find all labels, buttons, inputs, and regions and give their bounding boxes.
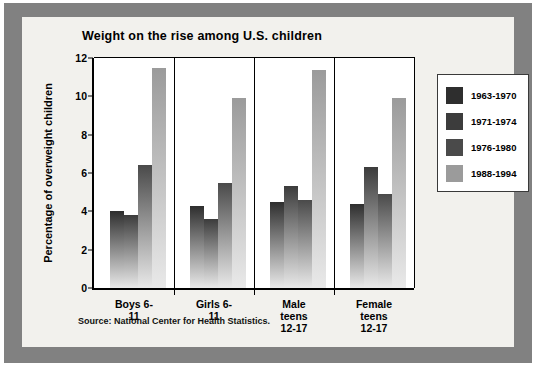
y-tick-mark: [88, 173, 93, 174]
y-tick-mark: [88, 288, 93, 289]
y-tick-mark: [88, 249, 93, 250]
y-axis-title: Percentage of overweight children: [42, 83, 54, 263]
legend-label: 1963-1970: [471, 90, 516, 101]
legend-label: 1976-1980: [471, 142, 516, 153]
bar: [232, 98, 246, 288]
bar-group: Boys 6-11: [94, 58, 174, 288]
bar: [378, 194, 392, 288]
y-tick-label: 6: [81, 167, 87, 179]
y-tick-label: 0: [81, 282, 87, 294]
bar: [110, 211, 124, 288]
bar: [218, 183, 232, 288]
bar: [270, 202, 284, 288]
bar: [350, 204, 364, 288]
legend-item: 1963-1970: [446, 82, 528, 108]
group-separator: [254, 58, 255, 288]
legend-label: 1971-1974: [471, 116, 516, 127]
legend-swatch: [446, 87, 463, 104]
y-tick-label: 10: [75, 90, 87, 102]
chart-legend: 1963-19701971-19741976-19801988-1994: [437, 74, 529, 192]
bar: [298, 200, 312, 288]
bar: [152, 68, 166, 288]
x-tick-mark: [334, 289, 335, 295]
bar-group: Female teens 12-17: [334, 58, 414, 288]
bar: [392, 98, 406, 288]
y-tick-label: 8: [81, 129, 87, 141]
chart-panel: Weight on the rise among U.S. children P…: [22, 17, 514, 347]
legend-item: 1971-1974: [446, 108, 528, 134]
legend-item: 1988-1994: [446, 160, 528, 186]
bar-group: Girls 6-11: [174, 58, 254, 288]
chart-title: Weight on the rise among U.S. children: [82, 29, 322, 43]
source-note: Source: National Center for Health Stati…: [78, 316, 270, 326]
bar: [284, 186, 298, 288]
bar: [204, 219, 218, 288]
group-separator: [174, 58, 175, 288]
y-tick-mark: [88, 134, 93, 135]
plot-area: 024681012 Boys 6-11Girls 6-11Male teens …: [92, 58, 414, 290]
bar: [138, 165, 152, 288]
y-tick-label: 2: [81, 244, 87, 256]
y-tick-mark: [88, 211, 93, 212]
legend-label: 1988-1994: [471, 168, 516, 179]
y-tick-mark: [88, 58, 93, 59]
y-tick-label: 4: [81, 205, 87, 217]
x-tick-mark: [174, 289, 175, 295]
x-axis-label: Female teens 12-17: [354, 298, 394, 334]
chart-figure: Weight on the rise among U.S. children P…: [0, 0, 540, 369]
legend-item: 1976-1980: [446, 134, 528, 160]
group-separator: [334, 58, 335, 288]
plot-border-right: [414, 57, 415, 288]
bar-group: Male teens 12-17: [254, 58, 334, 288]
y-tick-label: 12: [75, 52, 87, 64]
x-tick-mark: [254, 289, 255, 295]
legend-swatch: [446, 113, 463, 130]
bar: [190, 206, 204, 288]
x-axis-label: Male teens 12-17: [274, 298, 314, 334]
bar: [364, 167, 378, 288]
legend-swatch: [446, 139, 463, 156]
y-tick-mark: [88, 96, 93, 97]
legend-swatch: [446, 165, 463, 182]
bar: [124, 215, 138, 288]
bar: [312, 70, 326, 289]
